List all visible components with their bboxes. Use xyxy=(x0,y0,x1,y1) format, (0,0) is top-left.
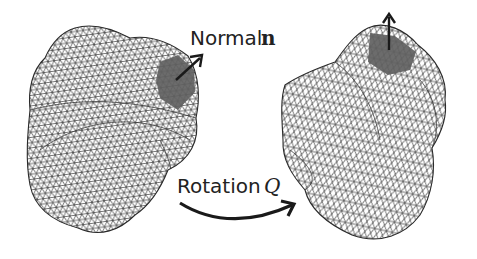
rotation-label: Rotation Q xyxy=(177,174,280,198)
rotation-arrow xyxy=(180,201,294,219)
mesh-before-rotation xyxy=(20,20,210,245)
figure-canvas: Normal n Rotation Q xyxy=(0,0,477,259)
normal-label-text: Normal xyxy=(190,26,262,50)
mesh-after-rotation xyxy=(275,15,455,250)
rotation-label-text: Rotation xyxy=(177,174,261,198)
normal-symbol: n xyxy=(261,26,276,50)
rotation-symbol: Q xyxy=(264,174,280,198)
normal-label: Normal n xyxy=(190,26,276,50)
